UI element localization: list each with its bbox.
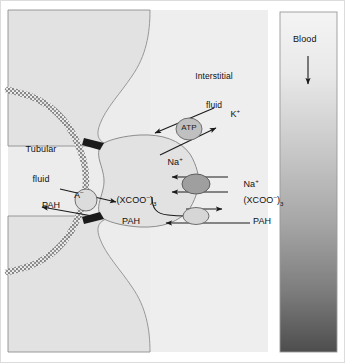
pah-tubular-label: PAH [42, 200, 60, 210]
pah-cell-label: PAH [122, 216, 140, 226]
dicarboxylate-interstitial-label: (XCOO–)3 [233, 185, 284, 215]
anion-label: A– [64, 180, 84, 210]
pah-blood-label: PAH [253, 216, 271, 226]
atp-label: ATP [178, 124, 200, 133]
sodium-dicarboxylate-cotransporter-icon [182, 174, 210, 194]
potassium-label: K+ [220, 99, 240, 129]
blood-label: Blood [293, 34, 317, 44]
basolateral-oat-exchanger-icon [183, 208, 209, 225]
sodium-pump-label: Na+ [157, 147, 183, 177]
tubular-fluid-label: Tubular fluid [12, 124, 70, 205]
renal-pah-secretion-figure: Tubular fluid Interstitial fluid Blood A… [0, 0, 345, 363]
dicarboxylate-intracellular-label: (XCOO–)3 [106, 185, 157, 215]
